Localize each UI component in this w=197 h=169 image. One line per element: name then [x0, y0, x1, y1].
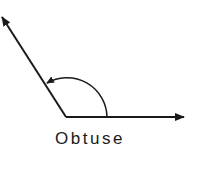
oblique-ray	[2, 17, 66, 117]
angle-label: Obtuse	[40, 129, 140, 149]
angle-arc	[47, 78, 107, 117]
